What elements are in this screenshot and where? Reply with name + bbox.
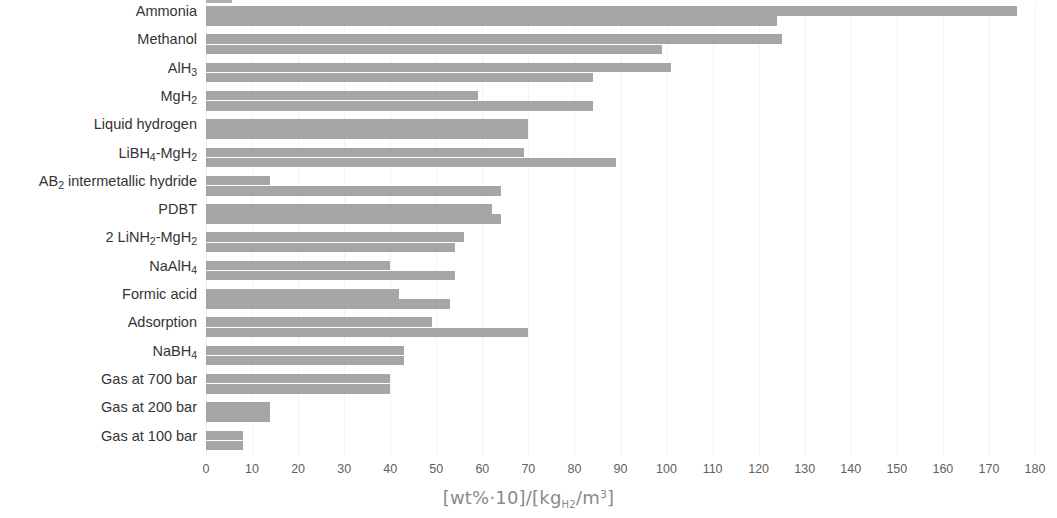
axis-top-stub [206,0,232,3]
x-tick-label: 60 [462,462,502,476]
bar-group [206,176,1035,196]
bar-gravimetric [206,45,662,55]
category-label-sub: 2 [58,179,64,191]
bar-volumetric [206,63,671,73]
plot-area [206,4,1035,456]
bar-group [206,91,1035,111]
category-label-text: Gas at 700 bar [101,371,197,387]
category-axis-labels: AmmoniaMethanolAlH3MgH2Liquid hydrogenLi… [0,0,197,460]
bar-gravimetric [206,328,528,338]
bar-volumetric [206,346,404,356]
gridline [1035,4,1036,456]
bar-group [206,431,1035,451]
category-label: NaAlH4 [0,258,197,274]
category-label-sub2: 2 [191,235,197,247]
x-tick-label: 80 [554,462,594,476]
category-label: AlH3 [0,60,197,76]
category-label-text: LiBH [118,145,149,161]
category-label-sub: 2 [150,235,156,247]
bar-group [206,63,1035,83]
category-label-text2: -MgH [156,145,191,161]
x-axis-title-open: [wt%·10]/[kg [443,487,562,508]
category-label: LiBH4-MgH2 [0,145,197,161]
bar-group [206,374,1035,394]
bar-volumetric [206,431,243,441]
category-label: Gas at 100 bar [0,428,197,444]
category-label-text: Ammonia [136,3,197,19]
bar-volumetric [206,204,492,214]
bar-gravimetric [206,299,450,309]
category-label-sub2: 2 [191,151,197,163]
bar-gravimetric [206,186,501,196]
category-label: Gas at 200 bar [0,399,197,415]
bar-gravimetric [206,412,270,422]
category-label-text: MgH [161,88,192,104]
x-axis-title-mid: /m [576,487,600,508]
x-tick-label: 110 [693,462,733,476]
bar-volumetric [206,402,270,412]
category-label-text: Gas at 200 bar [101,399,197,415]
bar-gravimetric [206,384,390,394]
x-tick-label: 100 [647,462,687,476]
bar-gravimetric [206,214,501,224]
x-tick-label: 20 [278,462,318,476]
x-tick-label: 90 [601,462,641,476]
x-tick-label: 10 [232,462,272,476]
category-label-text: Adsorption [128,314,197,330]
bar-group [206,34,1035,54]
bar-gravimetric [206,158,616,168]
category-label: Gas at 700 bar [0,371,197,387]
x-tick-label: 50 [416,462,456,476]
x-axis-title-close: ] [607,487,614,508]
x-tick-label: 30 [324,462,364,476]
category-label: Adsorption [0,314,197,330]
bar-volumetric [206,91,478,101]
x-tick-label: 160 [923,462,963,476]
x-tick-label: 170 [969,462,1009,476]
category-label: NaBH4 [0,343,197,359]
x-axis-title: [wt%·10]/[kgH2/m3] [0,487,1057,508]
bar-group [206,346,1035,366]
category-label-text: Formic acid [122,286,197,302]
x-tick-label: 180 [1015,462,1055,476]
bar-group [206,119,1035,139]
bar-group [206,204,1035,224]
x-tick-label: 150 [877,462,917,476]
bar-volumetric [206,148,524,158]
bar-group [206,402,1035,422]
category-label-text: Methanol [137,31,197,47]
category-label: MgH2 [0,88,197,104]
x-tick-label: 0 [186,462,226,476]
bar-gravimetric [206,271,455,281]
category-label-text: 2 LiNH [106,229,150,245]
bar-volumetric [206,119,528,129]
bar-gravimetric [206,441,243,451]
bar-volumetric [206,176,270,186]
category-label-text: PDBT [158,201,197,217]
x-tick-label: 140 [831,462,871,476]
category-label-text: Gas at 100 bar [101,428,197,444]
x-tick-label: 130 [785,462,825,476]
x-tick-label: 70 [508,462,548,476]
bar-gravimetric [206,101,593,111]
bar-gravimetric [206,243,455,253]
category-label-sub: 2 [191,94,197,106]
category-label: Ammonia [0,3,197,19]
bar-gravimetric [206,129,528,139]
bar-group [206,6,1035,26]
bar-gravimetric [206,356,404,366]
category-label: Methanol [0,31,197,47]
category-label-text: AB [39,173,58,189]
bar-volumetric [206,374,390,384]
bar-group [206,261,1035,281]
bar-volumetric [206,6,1017,16]
bar-volumetric [206,317,432,327]
category-label-text: NaBH [152,343,191,359]
x-axis-title-sup: 3 [600,488,607,501]
bar-group [206,289,1035,309]
category-label: Formic acid [0,286,197,302]
category-label: Liquid hydrogen [0,116,197,132]
bar-group [206,148,1035,168]
category-label-text2: -MgH [156,229,191,245]
category-label-text2: intermetallic hydride [64,173,197,189]
